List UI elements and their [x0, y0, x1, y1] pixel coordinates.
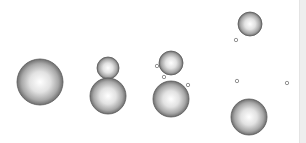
scrollbar[interactable] — [299, 0, 306, 143]
spheres-group — [17, 12, 267, 135]
sphere-3-bottom-icon — [153, 81, 189, 117]
sphere-4-bottom-icon — [231, 99, 267, 135]
sphere-2-bottom-icon — [90, 78, 126, 114]
small-circle-icon — [162, 75, 165, 78]
small-circle-icon — [285, 81, 288, 84]
sphere-4-top-icon — [238, 12, 262, 36]
small-circle-icon — [155, 64, 158, 67]
sphere-3-top-icon — [159, 51, 183, 75]
small-circle-icon — [234, 38, 237, 41]
small-circle-icon — [235, 79, 238, 82]
sphere-1-icon — [17, 59, 63, 105]
small-circle-icon — [186, 83, 189, 86]
sphere-sequence-figure — [0, 0, 306, 143]
sphere-2-top-icon — [97, 57, 119, 79]
